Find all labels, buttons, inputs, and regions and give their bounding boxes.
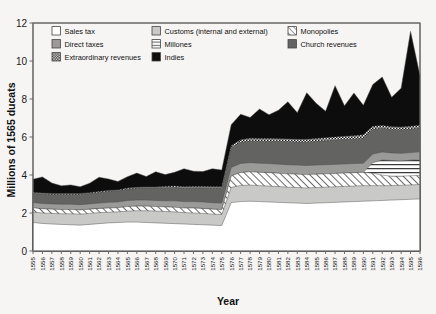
legend-item[interactable]: Sales tax <box>52 27 95 36</box>
x-tick-label: 1579 <box>256 256 263 270</box>
x-tick-label: 1590 <box>360 256 367 270</box>
x-tick-label: 1567 <box>143 256 150 270</box>
legend-swatch-horizontal-lines <box>152 40 160 48</box>
legend-label: Sales tax <box>65 27 96 36</box>
x-tick-label: 1591 <box>369 256 376 270</box>
y-tick-label: 10 <box>16 56 28 67</box>
x-tick-label: 1585 <box>313 256 320 270</box>
y-tick-label: 12 <box>16 18 28 29</box>
legend-label: Church revenues <box>301 40 358 49</box>
legend-item[interactable]: Customs (internal and external) <box>152 27 268 36</box>
legend-swatch-mid-gray <box>52 40 60 48</box>
x-tick-label: 1559 <box>67 256 74 270</box>
stacked-area-chart: 024681012 155515561557155815591560156115… <box>0 0 436 314</box>
chart-root: 024681012 155515561557155815591560156115… <box>0 0 436 314</box>
x-tick-label: 1560 <box>77 256 84 270</box>
legend-label: Extraordinary revenues <box>65 53 142 62</box>
x-tick-label: 1594 <box>398 256 405 270</box>
x-tick-label: 1592 <box>379 256 386 270</box>
x-tick-label: 1563 <box>105 256 112 270</box>
legend-item[interactable]: Extraordinary revenues <box>52 53 141 62</box>
legend-item[interactable]: Indies <box>152 53 185 62</box>
x-tick-label: 1570 <box>171 256 178 270</box>
x-tick-label: 1557 <box>48 256 55 270</box>
legend-swatch-white <box>52 27 60 35</box>
x-tick-label: 1568 <box>152 256 159 270</box>
legend-item[interactable]: Monopolies <box>288 27 339 36</box>
x-tick-label: 1571 <box>180 256 187 270</box>
x-tick-label: 1589 <box>350 256 357 270</box>
legend-label: Direct taxes <box>65 40 104 49</box>
x-tick-label: 1587 <box>331 256 338 270</box>
legend-label: Indies <box>165 53 185 62</box>
x-tick-label: 1556 <box>39 256 46 270</box>
x-tick-label: 1577 <box>237 256 244 270</box>
x-tick-label: 1580 <box>265 256 272 270</box>
y-tick-label: 0 <box>21 246 27 257</box>
legend-swatch-diagonal-hatch <box>288 27 296 35</box>
legend-swatch-light-gray <box>152 27 160 35</box>
x-tick-label: 1573 <box>199 256 206 270</box>
x-tick-label: 1565 <box>124 256 131 270</box>
x-tick-label: 1569 <box>162 256 169 270</box>
legend-label: Customs (internal and external) <box>165 27 268 36</box>
y-tick-label: 2 <box>21 208 27 219</box>
x-tick-label: 1558 <box>58 256 65 270</box>
x-tick-label: 1566 <box>133 256 140 270</box>
x-tick-label: 1555 <box>29 256 36 270</box>
legend-swatch-black <box>152 53 160 61</box>
x-tick-label: 1584 <box>303 256 310 270</box>
x-tick-label: 1578 <box>246 256 253 270</box>
x-tick-label: 1581 <box>275 256 282 270</box>
legend-item[interactable]: Direct taxes <box>52 40 104 49</box>
x-tick-label: 1596 <box>416 256 423 270</box>
x-tick-label: 1562 <box>95 256 102 270</box>
y-tick-label: 4 <box>21 170 27 181</box>
legend-label: Millones <box>165 40 192 49</box>
x-axis-title: Year <box>217 295 239 307</box>
y-axis-title: Millions of 1565 ducats <box>5 82 17 197</box>
x-tick-label: 1576 <box>228 256 235 270</box>
x-tick-label: 1575 <box>218 256 225 270</box>
x-tick-label: 1593 <box>388 256 395 270</box>
x-tick-label: 1564 <box>114 256 121 270</box>
x-tick-label: 1588 <box>341 256 348 270</box>
y-tick-label: 6 <box>21 132 27 143</box>
legend-swatch-dark-gray <box>288 40 296 48</box>
legend-swatch-checker-dots <box>52 53 60 61</box>
x-tick-label: 1583 <box>294 256 301 270</box>
x-tick-label: 1561 <box>86 256 93 270</box>
y-tick-label: 8 <box>21 94 27 105</box>
legend-item[interactable]: Millones <box>152 40 192 49</box>
legend-label: Monopolies <box>301 27 339 36</box>
x-tick-label: 1572 <box>190 256 197 270</box>
x-tick-label: 1595 <box>407 256 414 270</box>
x-tick-label: 1582 <box>284 256 291 270</box>
x-tick-label: 1586 <box>322 256 329 270</box>
x-tick-label: 1574 <box>209 256 216 270</box>
